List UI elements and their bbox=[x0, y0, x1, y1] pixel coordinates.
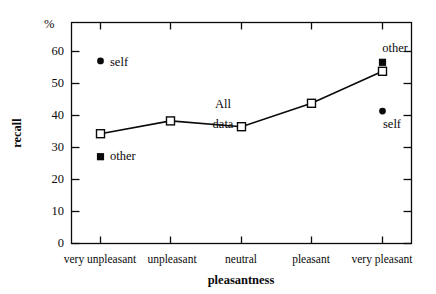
annotation-self-left: self bbox=[110, 56, 128, 69]
x-tick-label-neutral: neutral bbox=[225, 254, 257, 266]
y-tick-label-40: 40 bbox=[38, 109, 64, 122]
annotation-all: All bbox=[215, 98, 231, 111]
recall-vs-pleasantness-chart bbox=[0, 0, 436, 294]
series-markers-self bbox=[97, 58, 386, 115]
y-axis-ticks bbox=[72, 52, 80, 244]
annotation-self-right: self bbox=[383, 118, 401, 131]
y-axis-unit-label: % bbox=[44, 18, 54, 31]
x-axis-title: pleasantness bbox=[208, 274, 275, 287]
y-tick-label-10: 10 bbox=[38, 205, 64, 218]
x-tick-label-very-unpleasant: very unpleasant bbox=[64, 254, 137, 266]
x-tick-label-very-pleasant: very pleasant bbox=[352, 254, 413, 266]
y-axis-title: recall bbox=[11, 118, 24, 148]
y-tick-label-30: 30 bbox=[38, 141, 64, 154]
y-tick-label-50: 50 bbox=[38, 77, 64, 90]
x-axis-ticks bbox=[101, 237, 383, 244]
x-tick-label-pleasant: pleasant bbox=[292, 254, 330, 266]
annotation-other-right: other bbox=[382, 42, 408, 55]
x-tick-label-unpleasant: unpleasant bbox=[147, 254, 196, 266]
series-markers-other bbox=[97, 59, 386, 161]
y-tick-label-20: 20 bbox=[38, 173, 64, 186]
y-tick-label-60: 60 bbox=[38, 45, 64, 58]
annotation-other-left: other bbox=[110, 150, 136, 163]
y-axis-ticks-right bbox=[404, 52, 412, 244]
x-axis-ticks-top bbox=[101, 23, 383, 30]
annotation-data: data bbox=[213, 118, 234, 131]
y-tick-label-0: 0 bbox=[38, 237, 64, 250]
